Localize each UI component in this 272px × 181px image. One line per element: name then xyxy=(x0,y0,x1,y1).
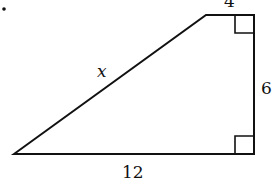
label-bottom: 12 xyxy=(122,162,144,181)
bullet-dot xyxy=(2,7,6,11)
label-top: 4 xyxy=(224,0,235,11)
label-right: 6 xyxy=(261,78,272,98)
right-angle-marker-bottom xyxy=(235,136,254,154)
trapezoid-diagram: 4 x 6 12 xyxy=(0,0,272,181)
label-slant: x xyxy=(97,61,107,81)
trapezoid-outline xyxy=(14,15,254,154)
right-angle-marker-top xyxy=(235,15,254,33)
